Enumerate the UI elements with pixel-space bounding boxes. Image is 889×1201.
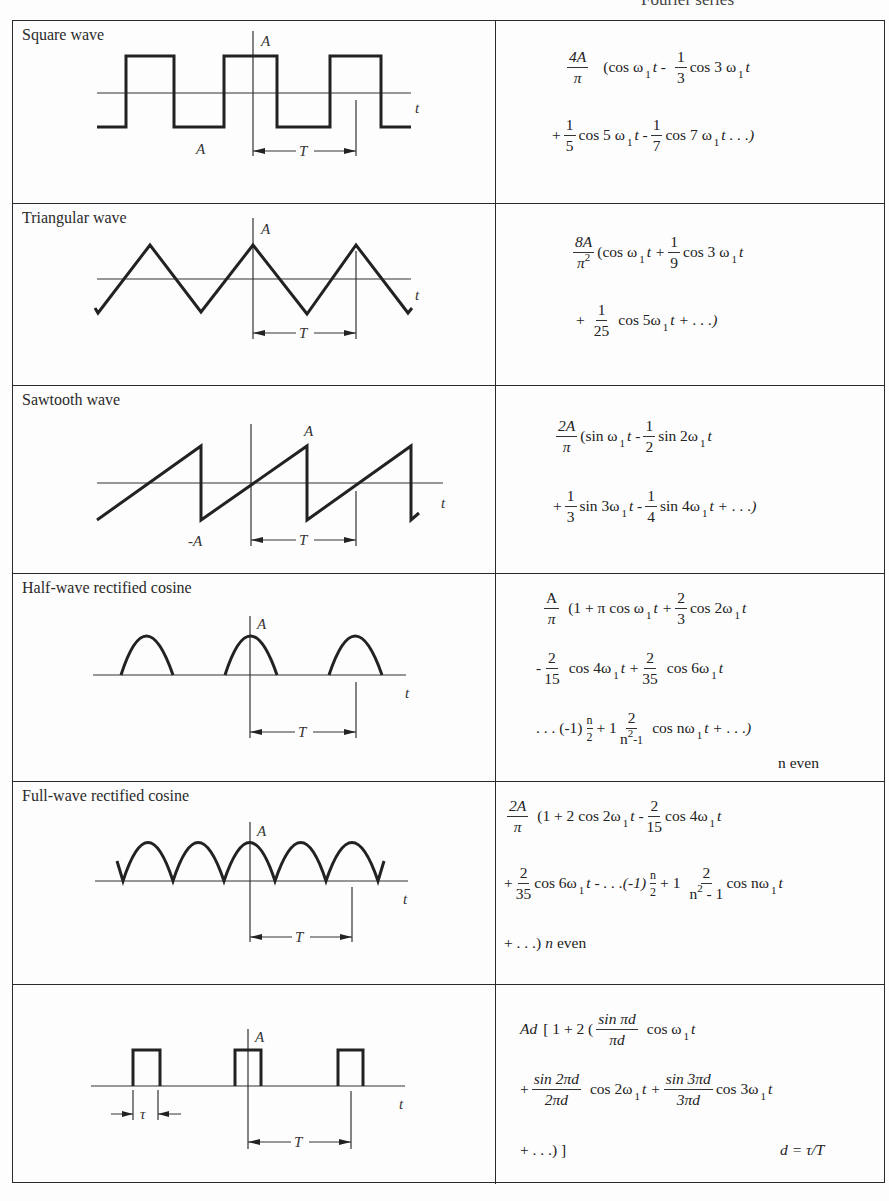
formula-term: + 1	[597, 719, 617, 737]
fraction-numerator: 1	[645, 488, 657, 507]
fraction-numerator: 1	[675, 49, 687, 68]
fraction-numerator: 2	[648, 798, 660, 817]
formula-term: cos 4ω	[665, 807, 708, 825]
amplitude-label: A	[256, 616, 267, 632]
formula-term: sin 3ω	[580, 497, 620, 515]
formula-term: cos ω	[647, 1020, 682, 1038]
formula-term: t	[708, 427, 712, 445]
amplitude-label: A	[256, 823, 267, 839]
formula-term: t + . . .)	[704, 719, 751, 737]
formula-term: t	[778, 874, 782, 892]
coefficient-denominator: π	[548, 610, 556, 627]
formula-term: cos 3 ω	[690, 58, 736, 76]
fourier-series-cell: Ad [ 1 + 2 ( sin πdπd cos ω 1 t + sin 2π…	[496, 985, 884, 1184]
fraction-denominator: 4	[647, 507, 655, 525]
formula-term: t . . .)	[721, 126, 754, 144]
formula-term: cos nω	[726, 874, 769, 892]
fraction-denominator: 3	[677, 609, 685, 627]
formula-term: t	[691, 1020, 695, 1038]
fraction-numerator: 1	[643, 418, 655, 437]
superscript: 2	[628, 727, 634, 739]
formula-term: cos 3ω	[716, 1080, 759, 1098]
pulse-width-label: τ	[140, 1106, 146, 1122]
fraction-numerator: sin πd	[598, 1010, 635, 1027]
sawtooth-wave-graph: T A -A t	[13, 386, 496, 574]
amplitude-label-bottom: A	[195, 141, 206, 157]
formula-term: +	[553, 497, 562, 515]
coefficient-numerator: 4A	[569, 48, 586, 65]
fraction-numerator: 2	[701, 865, 713, 884]
coefficient-numerator: 2A	[509, 797, 526, 814]
formula-term: (sin ω	[580, 427, 617, 445]
axis-label-t: t	[405, 685, 410, 701]
formula-term: t	[768, 1080, 772, 1098]
waveform-cell: Half-wave rectified cosine T A t	[13, 574, 496, 781]
formula-term: + 1	[660, 874, 680, 892]
subscript: 1	[627, 136, 633, 148]
coefficient-numerator: A	[544, 590, 559, 609]
coefficient-denominator: π	[514, 818, 522, 835]
fraction-denominator: 2πd	[545, 1091, 568, 1108]
subscript: 1	[702, 507, 708, 519]
formula-term: + . . .) ]	[520, 1141, 566, 1159]
formula-term: . . . (-1)	[536, 719, 583, 737]
subscript: 1	[663, 321, 669, 333]
fraction-numerator: 2	[546, 650, 558, 669]
table-row-half-wave-rectified-cosine: Half-wave rectified cosine T A t Aπ	[13, 574, 884, 782]
pulse-train-graph: τ T A t	[13, 985, 496, 1184]
formula-term: t	[717, 807, 721, 825]
subscript: 1	[714, 136, 720, 148]
formula-term: t	[739, 243, 743, 261]
formula-term: t -	[653, 58, 666, 76]
exponent-numerator: n	[585, 714, 595, 728]
triangular-wave-graph: T A t	[13, 204, 496, 386]
fraction-denominator: 35	[642, 669, 658, 687]
fraction-numerator: 1	[564, 117, 576, 136]
square-wave-graph: T A A t	[13, 21, 496, 204]
formula-term: t +	[647, 243, 666, 261]
formula-term: -1	[633, 733, 643, 747]
subscript: 1	[621, 507, 627, 519]
fraction-numerator: 2	[675, 590, 687, 609]
formula-term: t -	[630, 807, 643, 825]
subscript: 1	[760, 1090, 766, 1102]
axis-label-t: t	[415, 100, 420, 116]
formula-term: (cos ω	[603, 58, 643, 76]
coefficient-denominator: π	[577, 254, 585, 271]
exponent-denominator: 2	[650, 883, 656, 898]
condition-note: d = τ/T	[780, 1141, 824, 1159]
axis-label-t: t	[441, 495, 446, 511]
subscript: 1	[646, 609, 652, 621]
axis-label-t: t	[399, 1096, 404, 1112]
formula-term: Ad	[520, 1020, 537, 1038]
fraction-denominator: 15	[544, 669, 560, 687]
formula-term: cos nω	[652, 719, 695, 737]
amplitude-label: A	[254, 1029, 265, 1045]
subscript: 1	[684, 1030, 690, 1042]
waveform-cell: Sawtooth wave T A -A t	[13, 386, 496, 573]
table-row-pulse-train: τ T A t Ad [ 1 + 2 ( sin πdπd cos ω 1 t	[13, 985, 884, 1184]
exponent-numerator: n	[648, 869, 658, 883]
fourier-series-cell: 8Aπ2 (cos ω 1 t + 19 cos 3 ω 1 t + 125 c…	[496, 204, 884, 385]
axis-label-t: t	[415, 287, 420, 303]
coefficient-denominator: π	[574, 69, 582, 86]
formula-term: cos 4ω	[569, 659, 612, 677]
formula-term: cos 6ω	[667, 659, 710, 677]
fraction-numerator: sin 3πd	[666, 1070, 711, 1087]
formula-term: cos 2ω	[690, 599, 733, 617]
formula-term: t	[719, 659, 723, 677]
formula-term: t +	[621, 659, 640, 677]
formula-term: t -	[634, 126, 647, 144]
fraction-numerator: 2	[626, 710, 638, 729]
formula-term: +	[504, 874, 513, 892]
amplitude-label: A	[260, 221, 271, 237]
fraction-denominator: 2	[645, 437, 653, 455]
formula-term: cos 6ω	[534, 874, 577, 892]
coefficient-numerator: 8A	[575, 233, 592, 250]
formula-term: t + . . .)	[709, 497, 756, 515]
fourier-series-cell: 4Aπ (cos ω 1 t - 13 cos 3 ω 1 t + 15 cos…	[496, 21, 884, 203]
fourier-series-cell: 2Aπ (1 + 2 cos 2ω 1 t - 215 cos 4ω 1 t +…	[496, 782, 884, 984]
formula-term: +	[552, 126, 561, 144]
formula-term: t +	[642, 1080, 661, 1098]
formula-term: cos 7 ω	[665, 126, 711, 144]
